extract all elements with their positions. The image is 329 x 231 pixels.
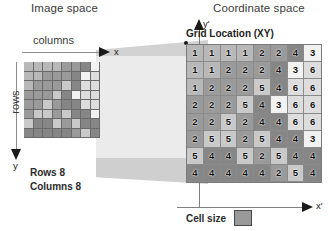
grid-cell-value: 4 — [209, 151, 214, 161]
grid-cell-value: 5 — [242, 100, 247, 110]
grid-cell: 4 — [204, 165, 221, 182]
columns-axis-line — [22, 52, 100, 53]
image-pixel — [62, 110, 72, 120]
image-pixel — [34, 81, 44, 91]
grid-cell-value: 6 — [293, 83, 298, 93]
image-pixel — [91, 129, 101, 139]
grid-cell: 4 — [271, 131, 288, 148]
image-pixel — [72, 129, 82, 139]
grid-cell: 6 — [304, 96, 321, 113]
grid-cell-value: 4 — [226, 168, 231, 178]
grid-cell: 1 — [187, 45, 204, 62]
grid-location-title: Grid Location (XY) — [186, 28, 274, 39]
grid-cell: 1 — [237, 45, 254, 62]
rows-arrow-icon — [11, 149, 21, 160]
grid-cell-value: 4 — [259, 100, 264, 110]
grid-cell: 2 — [204, 114, 221, 131]
grid-cell-value: 5 — [276, 151, 281, 161]
grid-cell: 5 — [187, 148, 204, 165]
grid-cell-value: 6 — [293, 117, 298, 127]
grid-cell: 2 — [271, 165, 288, 182]
grid-cell: 1 — [187, 79, 204, 96]
image-pixel — [72, 81, 82, 91]
cell-size-legend: Cell size — [186, 210, 252, 226]
grid-cell-value: 3 — [310, 134, 315, 144]
image-pixel — [81, 100, 91, 110]
grid-cell: 3 — [288, 62, 305, 79]
image-dimensions: Rows 8 Columns 8 — [30, 166, 81, 194]
grid-cell-value: 1 — [242, 48, 247, 58]
grid-cell: 2 — [254, 148, 271, 165]
grid-cell: 5 — [237, 96, 254, 113]
x-prime-arrow-icon — [302, 202, 313, 212]
grid-cell: 4 — [271, 114, 288, 131]
image-pixel — [81, 129, 91, 139]
image-pixel — [43, 100, 53, 110]
grid-cell-value: 3 — [276, 100, 281, 110]
grid-cell-value: 2 — [242, 65, 247, 75]
grid-cell: 2 — [237, 114, 254, 131]
image-pixel — [72, 72, 82, 82]
grid-cell-value: 4 — [259, 117, 264, 127]
image-pixel — [24, 129, 34, 139]
grid-cell: 6 — [304, 79, 321, 96]
grid-cell-value: 2 — [226, 83, 231, 93]
grid-cell-value: 4 — [226, 151, 231, 161]
grid-cell: 2 — [221, 62, 238, 79]
x-prime-axis-label: x' — [316, 200, 323, 211]
grid-cell: 4 — [288, 148, 305, 165]
rows-axis-label: rows — [9, 82, 21, 122]
grid-cell-value: 1 — [209, 65, 214, 75]
grid-cell: 5 — [237, 148, 254, 165]
image-pixel — [53, 119, 63, 129]
image-pixel — [72, 119, 82, 129]
image-pixel — [81, 119, 91, 129]
image-pixel — [91, 91, 101, 101]
image-pixel — [34, 91, 44, 101]
grid-cell-value: 2 — [192, 117, 197, 127]
grid-cell-value: 6 — [293, 100, 298, 110]
image-pixel — [34, 72, 44, 82]
grid-cell-value: 2 — [259, 65, 264, 75]
diagram-canvas: Image space Coordinate space columns x r… — [0, 0, 329, 231]
grid-cell: 4 — [221, 165, 238, 182]
grid-cell-value: 5 — [259, 134, 264, 144]
grid-cell: 4 — [304, 165, 321, 182]
grid-cell: 3 — [304, 45, 321, 62]
grid-cell: 2 — [187, 114, 204, 131]
image-pixel — [91, 62, 101, 72]
image-pixel — [62, 62, 72, 72]
image-pixel — [43, 62, 53, 72]
grid-cell: 4 — [204, 148, 221, 165]
grid-cell-value: 6 — [310, 83, 315, 93]
grid-cell: 4 — [254, 96, 271, 113]
grid-cell: 5 — [254, 131, 271, 148]
image-pixel — [53, 110, 63, 120]
grid-cell: 2 — [237, 131, 254, 148]
grid-cell: 4 — [271, 79, 288, 96]
image-space-title: Image space — [31, 2, 98, 14]
grid-cell-value: 4 — [310, 168, 315, 178]
grid-cell: 4 — [288, 131, 305, 148]
coordinate-space-title: Coordinate space — [213, 2, 305, 14]
image-pixel — [53, 72, 63, 82]
grid-cell-value: 5 — [293, 168, 298, 178]
grid-cell-value: 4 — [276, 134, 281, 144]
grid-cell-value: 2 — [242, 117, 247, 127]
grid-cell-value: 2 — [209, 83, 214, 93]
grid-cell: 2 — [204, 79, 221, 96]
grid-cell-value: 6 — [310, 65, 315, 75]
grid-cell-value: 5 — [192, 151, 197, 161]
grid-cell: 6 — [288, 114, 305, 131]
image-pixel — [24, 119, 34, 129]
image-pixel — [53, 91, 63, 101]
grid-cell: 6 — [304, 62, 321, 79]
grid-cell: 1 — [204, 45, 221, 62]
grid-cell: 6 — [288, 96, 305, 113]
cell-size-swatch — [234, 210, 252, 226]
y-axis-label: y — [13, 160, 18, 171]
image-pixel — [34, 100, 44, 110]
grid-cell-value: 4 — [209, 168, 214, 178]
grid-cell-value: 4 — [259, 168, 264, 178]
grid-cell-value: 1 — [209, 48, 214, 58]
